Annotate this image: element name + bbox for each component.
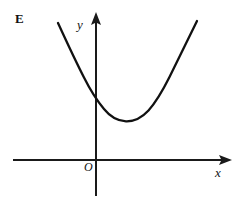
parabola-curve bbox=[58, 21, 197, 121]
x-axis-label: x bbox=[215, 166, 221, 179]
figure-panel: E y x O bbox=[0, 0, 246, 205]
origin-label: O bbox=[84, 161, 93, 173]
parabola-diagram bbox=[0, 0, 246, 205]
panel-label: E bbox=[15, 12, 24, 25]
y-axis-label: y bbox=[77, 18, 83, 31]
